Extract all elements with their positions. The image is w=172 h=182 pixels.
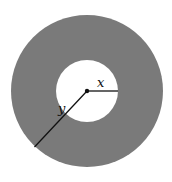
outer-radius-label: y	[57, 101, 66, 116]
annulus-diagram: x y	[0, 0, 172, 182]
center-point	[85, 89, 89, 93]
inner-radius-label: x	[97, 75, 105, 90]
